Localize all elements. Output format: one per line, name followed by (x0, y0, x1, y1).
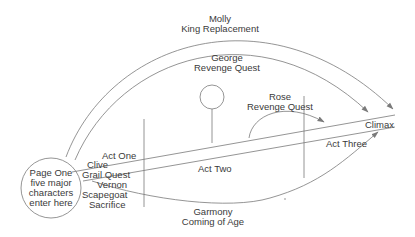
page-one-label: Page One five major characters enter her… (24, 168, 78, 208)
vernon-arc-line-2: Sacrifice (89, 200, 125, 210)
molly-label: Molly King Replacement (165, 14, 275, 34)
stray-dot (284, 198, 286, 200)
rose-arc-label: Revenge Quest (240, 102, 320, 112)
garmony-label: Garmony Coming of Age (180, 207, 246, 227)
page-one-line-4: enter here (24, 198, 78, 208)
george-label: George Revenge Quest (190, 53, 264, 73)
garmony-arc-label: Coming of Age (180, 217, 246, 227)
molly-arc-label: King Replacement (165, 24, 275, 34)
rose-label: Rose Revenge Quest (240, 92, 320, 112)
act-three-label: Act Three (326, 139, 367, 149)
climax-label: Climax (365, 120, 394, 130)
act-two-label: Act Two (198, 164, 232, 174)
story-structure-diagram: Molly King Replacement George Revenge Qu… (0, 0, 415, 237)
george-node-circle (200, 85, 224, 109)
george-arc-label: Revenge Quest (190, 63, 264, 73)
